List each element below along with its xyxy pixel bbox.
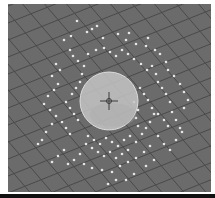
particle	[161, 87, 164, 90]
particle	[127, 149, 130, 152]
particle	[173, 75, 176, 78]
particle	[91, 28, 94, 31]
particle	[163, 143, 166, 146]
particle	[109, 51, 112, 54]
particle	[175, 139, 178, 142]
particle	[133, 58, 136, 61]
particle	[139, 87, 142, 90]
particle	[69, 133, 72, 136]
particle	[51, 75, 54, 78]
particle	[57, 155, 60, 158]
particle	[65, 101, 68, 104]
particle	[87, 53, 90, 56]
particle	[121, 49, 124, 52]
particle	[95, 49, 98, 52]
particle	[135, 141, 138, 144]
particle	[79, 81, 82, 84]
particle	[187, 99, 190, 102]
particle	[143, 151, 146, 154]
particle	[51, 123, 54, 126]
particle	[73, 159, 76, 162]
particle	[179, 83, 182, 86]
particle	[111, 141, 114, 144]
particle	[43, 103, 46, 106]
particle	[183, 91, 186, 94]
particle	[159, 53, 162, 56]
particle	[103, 47, 106, 50]
particle	[121, 153, 124, 156]
particle	[77, 60, 80, 63]
particle	[99, 143, 102, 146]
particle	[70, 35, 73, 38]
particle	[143, 93, 146, 96]
sphere-shading	[90, 103, 136, 126]
particle	[55, 115, 58, 118]
particle	[119, 165, 122, 168]
particle	[115, 157, 118, 160]
particle	[128, 32, 131, 35]
particle	[111, 171, 114, 174]
particle	[71, 93, 74, 96]
particle	[79, 153, 82, 156]
particle	[135, 43, 138, 46]
particle	[179, 127, 182, 130]
particle	[63, 149, 66, 152]
particle	[96, 25, 99, 28]
particle	[141, 133, 144, 136]
particle	[167, 69, 170, 72]
particle	[69, 107, 72, 110]
particle	[117, 145, 120, 148]
particle	[47, 95, 50, 98]
particle	[107, 183, 110, 186]
particle	[171, 111, 174, 114]
particle	[165, 61, 168, 64]
particle	[83, 65, 86, 68]
particle	[155, 73, 158, 76]
particle	[140, 63, 143, 66]
particle	[69, 49, 72, 52]
particle	[65, 127, 68, 130]
particle	[102, 37, 105, 40]
particle	[115, 55, 118, 58]
particle	[101, 169, 104, 172]
particle	[81, 73, 84, 76]
particle	[59, 69, 62, 72]
particle	[147, 99, 150, 102]
particle	[55, 63, 58, 66]
particle	[85, 143, 88, 146]
particle	[91, 167, 94, 170]
particle	[153, 159, 156, 162]
particle	[153, 113, 156, 116]
particle	[127, 53, 130, 56]
particle	[181, 131, 184, 134]
particle	[151, 65, 154, 68]
particle	[157, 135, 160, 138]
particle	[146, 69, 149, 72]
particle	[61, 121, 64, 124]
3d-viewport[interactable]	[8, 4, 211, 192]
particle	[147, 37, 150, 40]
particle	[45, 131, 48, 134]
particle	[183, 107, 186, 110]
particle	[37, 143, 40, 146]
particle	[86, 31, 89, 34]
particle	[135, 157, 138, 160]
particle	[97, 151, 100, 154]
particle	[93, 139, 96, 142]
particle	[145, 165, 148, 168]
particle	[145, 127, 148, 130]
particle	[105, 137, 108, 140]
particle	[167, 125, 170, 128]
particle	[137, 125, 140, 128]
viewport-bottom-bar	[0, 194, 215, 198]
particle	[53, 89, 56, 92]
particle	[51, 161, 54, 164]
particle	[169, 101, 172, 104]
particle	[154, 49, 157, 52]
viewport-scene[interactable]	[8, 4, 211, 192]
particle	[117, 33, 120, 36]
particle	[149, 145, 152, 148]
particle	[63, 39, 66, 42]
particle	[83, 163, 86, 166]
particle	[165, 93, 168, 96]
